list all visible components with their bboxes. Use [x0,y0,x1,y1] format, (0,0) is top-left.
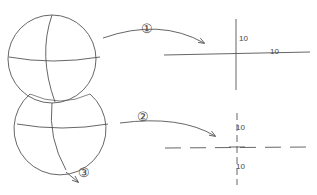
marker-3: ③ [78,165,90,180]
marker-2: ② [137,109,149,124]
arrow-1 [103,29,204,43]
lower-sphere [14,94,108,175]
solid-crosshair: 10 10 [164,19,310,90]
cross-2-top-label: 10 [236,123,245,132]
arrow-2 [120,121,215,136]
cross-1-horizontal-label: 10 [270,47,279,56]
cross-1-vertical-label: 10 [239,34,248,43]
sphere-projection-diagram: ① ② ③ 10 10 10 10 [0,0,317,195]
dashed-crosshair: 10 10 [165,113,310,185]
cross-2-bottom-label: 10 [236,162,245,171]
upper-sphere [8,15,100,103]
marker-1: ① [141,21,153,36]
